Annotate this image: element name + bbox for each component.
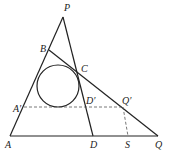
segment-BQ xyxy=(49,50,158,136)
segment-PA xyxy=(10,17,63,136)
label-S: S xyxy=(125,139,130,150)
label-B: B xyxy=(40,43,46,54)
label-A-prime: A′ xyxy=(12,103,22,114)
label-A: A xyxy=(4,139,12,150)
label-D: D xyxy=(89,139,98,150)
segment-PD xyxy=(63,17,93,136)
incircle xyxy=(37,65,79,107)
label-P: P xyxy=(63,2,70,13)
label-Q-prime: Q′ xyxy=(122,95,132,106)
label-C: C xyxy=(81,63,88,74)
label-Q: Q xyxy=(155,139,163,150)
geometry-diagram: P B C A′ D′ Q′ A D S Q xyxy=(0,0,172,164)
label-D-prime: D′ xyxy=(85,95,96,106)
